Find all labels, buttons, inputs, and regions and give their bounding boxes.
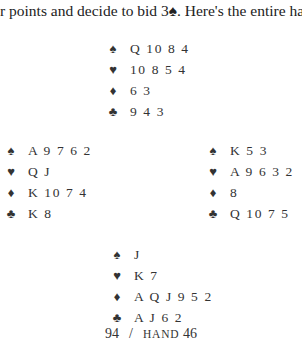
diamond-icon: ♦ bbox=[206, 182, 220, 203]
west-hearts: Q J bbox=[28, 161, 51, 182]
south-clubs: A J 6 2 bbox=[134, 307, 183, 328]
diamond-icon: ♦ bbox=[110, 286, 124, 307]
footer-separator: / bbox=[129, 326, 133, 341]
club-icon: ♣ bbox=[206, 203, 220, 224]
west-diamonds: K 10 7 4 bbox=[28, 182, 88, 203]
east-clubs: Q 10 7 5 bbox=[230, 203, 290, 224]
north-hearts: 10 8 5 4 bbox=[130, 59, 187, 80]
north-spades: Q 10 8 4 bbox=[130, 38, 190, 59]
south-spades: J bbox=[134, 244, 141, 265]
east-diamonds: 8 bbox=[230, 182, 238, 203]
page-number: 94 bbox=[105, 326, 119, 341]
west-clubs: K 8 bbox=[28, 203, 53, 224]
spade-icon: ♠ bbox=[4, 140, 18, 161]
club-icon: ♣ bbox=[106, 101, 120, 122]
heart-icon: ♥ bbox=[106, 59, 120, 80]
diamond-icon: ♦ bbox=[4, 182, 18, 203]
west-spades: A 9 7 6 2 bbox=[28, 140, 92, 161]
east-hearts: A 9 6 3 2 bbox=[230, 161, 294, 182]
section-label: HAND bbox=[143, 328, 179, 340]
east-spades: K 5 3 bbox=[230, 140, 268, 161]
page-footer: 94/HAND 46 bbox=[0, 326, 302, 342]
intro-text: r points and decide to bid 3♠. Here's th… bbox=[0, 2, 302, 20]
south-diamonds: A Q J 9 5 2 bbox=[134, 286, 213, 307]
spade-icon: ♠ bbox=[206, 140, 220, 161]
club-icon: ♣ bbox=[110, 307, 124, 328]
spade-icon: ♠ bbox=[110, 244, 124, 265]
north-clubs: 9 4 3 bbox=[130, 101, 165, 122]
club-icon: ♣ bbox=[4, 203, 18, 224]
spade-icon: ♠ bbox=[106, 38, 120, 59]
heart-icon: ♥ bbox=[206, 161, 220, 182]
heart-icon: ♥ bbox=[110, 265, 124, 286]
diamond-icon: ♦ bbox=[106, 80, 120, 101]
south-hearts: K 7 bbox=[134, 265, 159, 286]
hand-number: 46 bbox=[183, 326, 197, 341]
heart-icon: ♥ bbox=[4, 161, 18, 182]
north-diamonds: 6 3 bbox=[130, 80, 152, 101]
